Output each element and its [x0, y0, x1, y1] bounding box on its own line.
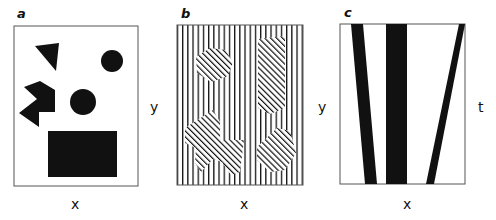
panel-a	[14, 26, 138, 186]
panel-c-t-label: t	[478, 99, 484, 115]
panel-b	[177, 25, 303, 185]
panel-c-letter: c	[344, 5, 352, 20]
panel-b-y-label: y	[318, 99, 326, 115]
panel-c-x-label: x	[403, 196, 411, 212]
vertical-band	[386, 24, 407, 184]
large-circle-shape	[70, 89, 96, 115]
panel-a-letter: a	[17, 6, 26, 21]
panel-c	[340, 24, 465, 184]
panel-b-x-label: x	[240, 196, 248, 212]
figure-canvas	[0, 0, 496, 220]
small-circle-shape	[101, 50, 123, 72]
panel-b-letter: b	[181, 6, 190, 21]
rectangle-shape	[48, 131, 117, 177]
panel-a-y-label: y	[150, 99, 158, 115]
panel-a-x-label: x	[71, 196, 79, 212]
